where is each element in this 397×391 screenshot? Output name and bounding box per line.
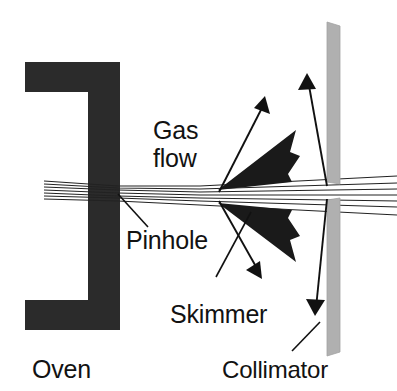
- collimator-arrow-shaft-1: [308, 80, 327, 186]
- collimator-arrows-upper: [298, 73, 327, 186]
- collimator-arrow-head-2: [306, 299, 325, 316]
- collimator-arrow-head-1: [298, 73, 316, 90]
- collimator-arrow-shaft-2: [316, 199, 327, 308]
- gas-flow-label-line2: flow: [153, 144, 198, 172]
- oven-label: Oven: [32, 355, 91, 383]
- skimmer-wedge-upper: [218, 130, 300, 190]
- skimmer-label: Skimmer: [170, 300, 267, 328]
- collimator-arrows-lower: [306, 199, 327, 316]
- skimmer-leader-line: [216, 212, 251, 277]
- collimator-bar-upper: [327, 22, 340, 184]
- skimmer-wedge-lower: [218, 203, 300, 262]
- diagram-canvas: Gas flow Pinhole Skimmer Oven Collimator: [0, 0, 397, 391]
- molecular-beam-figure: Gas flow Pinhole Skimmer Oven Collimator: [0, 0, 397, 391]
- collimator-leader-line: [292, 322, 320, 351]
- collimator-bar-lower: [327, 198, 340, 356]
- pinhole-label: Pinhole: [126, 226, 208, 254]
- gas-flow-arrow-head-1: [254, 96, 270, 114]
- collimator-label: Collimator: [222, 356, 328, 383]
- gas-flow-label-line1: Gas: [153, 116, 198, 144]
